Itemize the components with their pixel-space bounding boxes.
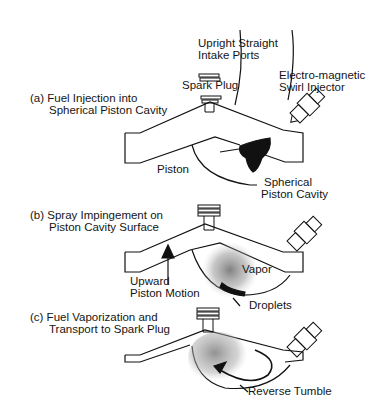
label-motion-line1: Upward: [130, 275, 170, 288]
caption-a-line1: (a) Fuel Injection into: [30, 92, 137, 105]
caption-b-line2: Piston Cavity Surface: [49, 221, 159, 234]
piston-top-b: [125, 250, 190, 272]
injector-c: [286, 320, 324, 358]
spark-plug-b: [198, 205, 220, 230]
label-droplets: Droplets: [249, 299, 292, 312]
caption-b-line1: (b) Spray Impingement on: [30, 209, 163, 222]
label-injector-line2: Swirl Injector: [279, 81, 345, 94]
caption-c-line2: Transport to Spark Plug: [49, 323, 170, 336]
label-spark-plug: Spark Plug: [182, 79, 238, 92]
fuel-spray: [240, 138, 271, 172]
piston-top: [125, 133, 240, 163]
label-intake-line2: Intake Ports: [198, 49, 259, 62]
label-cavity-line2: Piston Cavity: [261, 188, 328, 201]
engine-diagram: [0, 0, 370, 409]
label-reverse-tumble: Reverse Tumble: [248, 385, 332, 398]
caption-a-line2: Spherical Piston Cavity: [49, 104, 167, 117]
caption-c-line1: (c) Fuel Vaporization and: [30, 311, 158, 324]
injector-b: [286, 214, 324, 252]
piston-top-c: [125, 345, 190, 362]
vapor-cloud-c: [188, 332, 248, 384]
droplets-leader: [233, 298, 240, 306]
label-intake-line1: Upright Straight: [198, 37, 278, 50]
label-motion-line2: Piston Motion: [130, 287, 200, 300]
spark-plug-c: [197, 308, 219, 332]
label-piston: Piston: [157, 163, 189, 176]
label-injector-line1: Electro-magnetic: [279, 69, 365, 82]
upward-arrow-head: [162, 245, 174, 258]
label-cavity-line1: Spherical: [264, 176, 312, 189]
label-vapor: Vapor: [242, 263, 272, 276]
